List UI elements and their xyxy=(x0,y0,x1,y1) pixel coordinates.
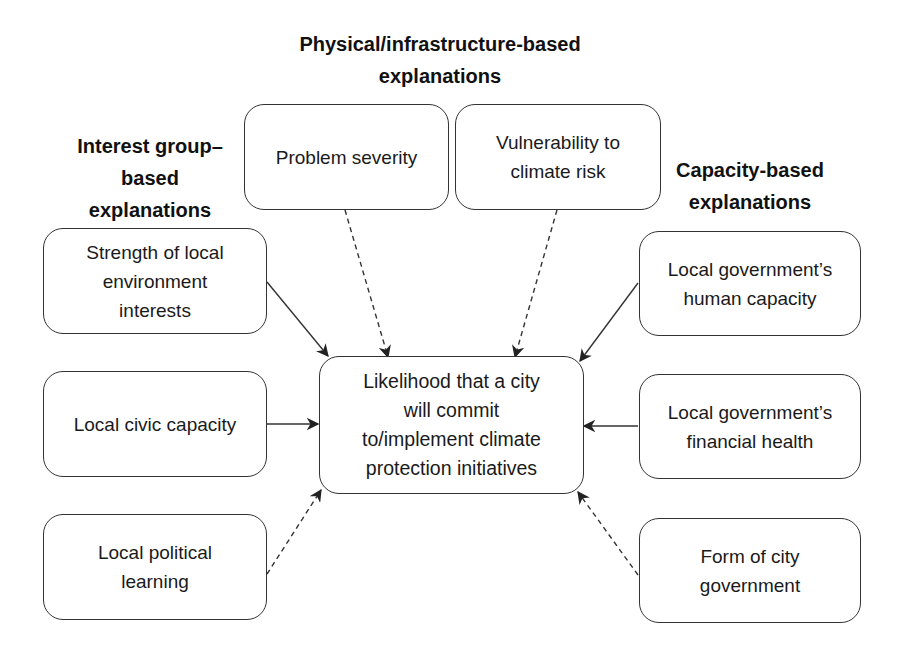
node-financial-health: Local government’s financial health xyxy=(639,374,861,479)
node-strength-of-environment-interests: Strength of local environment interests xyxy=(43,228,267,334)
edge-problem-severity xyxy=(345,210,388,357)
node-local-civic-capacity: Local civic capacity xyxy=(43,371,267,477)
edge-political-learning xyxy=(267,490,321,574)
diagram: Physical/infrastructure-based explanatio… xyxy=(0,0,910,665)
heading-capacity: Capacity-based explanations xyxy=(660,154,840,218)
heading-physical-infrastructure: Physical/infrastructure-based explanatio… xyxy=(275,28,605,92)
node-form-of-city-government: Form of city government xyxy=(639,518,861,623)
node-vulnerability-to-climate-risk: Vulnerability to climate risk xyxy=(455,104,661,210)
node-local-political-learning: Local political learning xyxy=(43,514,267,620)
edge-city-government-form xyxy=(578,492,638,575)
node-center-outcome: Likelihood that a city will commit to/im… xyxy=(319,356,584,494)
heading-interest-group: Interest group– based explanations xyxy=(60,130,240,226)
node-human-capacity: Local government’s human capacity xyxy=(639,231,861,336)
edge-human-capacity xyxy=(580,283,638,361)
edge-env-interests xyxy=(267,282,328,356)
node-problem-severity: Problem severity xyxy=(244,104,449,210)
edge-vulnerability xyxy=(515,210,557,357)
